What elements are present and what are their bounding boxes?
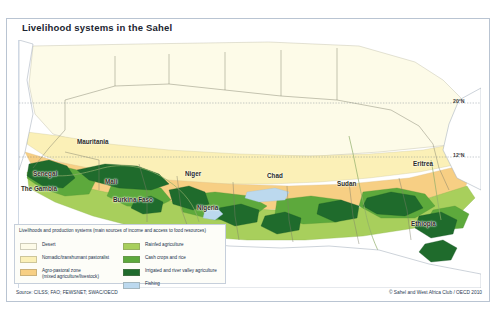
legend-label-cash-crops-line1: Cash crops and rice xyxy=(145,255,186,261)
legend-swatch-rainfed xyxy=(123,243,140,250)
legend-title-line1: Livelihoods and production systems xyxy=(19,228,92,233)
country-label-chad: Chad xyxy=(267,172,283,179)
legend-column-left: Desert Nomadic/transhumant pastoralist A… xyxy=(20,242,120,281)
legend-label-desert: Desert xyxy=(42,242,56,248)
latitude-label-12n: 12°N xyxy=(453,152,465,158)
legend-swatch-cash-crops xyxy=(123,256,140,263)
country-label-eritrea: Eritrea xyxy=(413,160,433,167)
legend-label-cash-crops: Cash crops and rice xyxy=(145,255,186,261)
legend-title: Livelihoods and production systems (main… xyxy=(19,228,223,234)
country-label-senegal: Senegal xyxy=(33,170,57,177)
legend-label-pastoralist: Nomadic/transhumant pastoralist xyxy=(42,255,109,261)
legend-label-agro-pastoral: Agro-pastoral zone (mixed agriculture/li… xyxy=(42,268,99,279)
source-note: Source: CILSS; FAO; FEWSNET; SWAC/OECD xyxy=(16,290,118,295)
legend-panel: Livelihoods and production systems (main… xyxy=(14,224,226,284)
country-label-nigeria: Nigeria xyxy=(197,204,218,211)
legend-item-pastoralist[interactable]: Nomadic/transhumant pastoralist xyxy=(20,255,120,268)
legend-label-irrigated-line1: Irrigated and river valley agriculture xyxy=(145,268,217,274)
country-label-the-gambia: The Gambia xyxy=(21,185,57,192)
legend-swatch-pastoralist xyxy=(20,256,37,263)
legend-swatch-agro-pastoral xyxy=(20,269,37,276)
legend-item-rainfed[interactable]: Rainfed agriculture xyxy=(123,242,227,255)
legend-item-fishing[interactable]: Fishing xyxy=(123,281,227,294)
legend-column-right: Rainfed agriculture Cash crops and rice … xyxy=(123,242,227,294)
legend-swatch-desert xyxy=(20,243,37,250)
legend-label-desert-line1: Desert xyxy=(42,242,56,248)
legend-label-pastoralist-line1: Nomadic/transhumant pastoralist xyxy=(42,255,109,261)
legend-label-agro-pastoral-line2: (mixed agriculture/livestock) xyxy=(42,274,99,280)
legend-label-rainfed: Rainfed agriculture xyxy=(145,242,184,248)
legend-label-irrigated: Irrigated and river valley agriculture xyxy=(145,268,217,274)
legend-title-line2: (main sources of income and access to fo… xyxy=(93,228,206,233)
legend-swatch-fishing xyxy=(123,282,140,289)
page-title: Livelihood systems in the Sahel xyxy=(22,22,172,33)
legend-label-rainfed-line1: Rainfed agriculture xyxy=(145,242,184,248)
country-label-niger: Niger xyxy=(185,170,201,177)
legend-item-desert[interactable]: Desert xyxy=(20,242,120,255)
country-label-ethiopia: Ethiopia xyxy=(411,220,436,227)
country-label-mauritania: Mauritania xyxy=(77,138,109,145)
country-label-mali: Mali xyxy=(105,178,117,185)
legend-item-agro-pastoral[interactable]: Agro-pastoral zone (mixed agriculture/li… xyxy=(20,268,120,281)
copyright-note: © Sahel and West Africa Club / OECD 2010 xyxy=(389,290,482,295)
legend-label-fishing: Fishing xyxy=(145,281,160,287)
country-label-burkina-faso: Burkina Faso xyxy=(113,196,153,203)
legend-label-fishing-line1: Fishing xyxy=(145,281,160,287)
latitude-label-20n: 20°N xyxy=(453,98,465,104)
map-figure: Livelihood systems in the Sahel xyxy=(0,0,498,310)
legend-item-cash-crops[interactable]: Cash crops and rice xyxy=(123,255,227,268)
country-label-sudan: Sudan xyxy=(337,180,356,187)
legend-swatch-irrigated xyxy=(123,269,140,276)
legend-item-irrigated[interactable]: Irrigated and river valley agriculture xyxy=(123,268,227,281)
